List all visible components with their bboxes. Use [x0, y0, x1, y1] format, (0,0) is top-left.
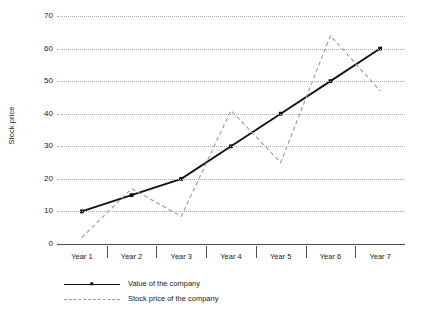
x-axis-tick-label: Year 6 — [306, 245, 356, 267]
y-axis-title-text: Stock price — [7, 106, 16, 144]
y-axis-tick-label: 60 — [23, 45, 53, 53]
legend-item-label: Stock price of the company — [124, 294, 218, 303]
gridline — [57, 81, 405, 82]
data-point-marker — [130, 193, 134, 197]
series-layer — [57, 16, 405, 244]
x-axis-tick-label: Year 4 — [206, 245, 256, 267]
y-axis-tick-label: 10 — [23, 207, 53, 215]
y-axis-title: Stock price — [0, 0, 22, 250]
gridline — [57, 49, 405, 50]
legend-item-label: Value of the company — [124, 279, 200, 288]
gridline — [57, 16, 405, 17]
gridline — [57, 114, 405, 115]
gridline — [57, 211, 405, 212]
line-chart: Stock price 010203040506070 Year 1Year 2… — [0, 0, 430, 317]
chart-legend: Value of the companyStock price of the c… — [60, 276, 360, 306]
legend-key-icon — [60, 293, 124, 305]
legend-key-icon — [60, 278, 124, 290]
series-line-1 — [82, 36, 380, 238]
y-axis-tick-label: 50 — [23, 77, 53, 85]
x-axis-tick-label: Year 7 — [355, 245, 405, 267]
x-axis-tick-label: Year 1 — [57, 245, 107, 267]
legend-key-line — [64, 299, 120, 300]
y-axis-tick-label: 0 — [23, 240, 53, 248]
gridline — [57, 179, 405, 180]
y-axis-tick-labels: 010203040506070 — [22, 16, 53, 244]
y-axis-tick-label: 40 — [23, 110, 53, 118]
y-axis-tick-label: 20 — [23, 175, 53, 183]
y-axis-tick-label: 70 — [23, 12, 53, 20]
gridline — [57, 146, 405, 147]
legend-item[interactable]: Stock price of the company — [60, 291, 360, 306]
x-axis-tick-label: Year 3 — [156, 245, 206, 267]
y-axis-tick-label: 30 — [23, 142, 53, 150]
legend-key-marker — [90, 282, 93, 285]
x-axis-tick-label: Year 2 — [107, 245, 157, 267]
plot-area — [57, 16, 405, 244]
series-line-0 — [82, 49, 380, 212]
legend-item[interactable]: Value of the company — [60, 276, 360, 291]
x-axis-tick-label: Year 5 — [256, 245, 306, 267]
x-axis-tick-labels: Year 1Year 2Year 3Year 4Year 5Year 6Year… — [57, 245, 405, 267]
